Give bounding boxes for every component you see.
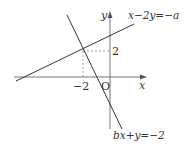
x-axis-label: x [139, 79, 146, 92]
line-label-x-minus-2y: x−2y=−a [128, 9, 179, 21]
line-label-bx-plus-y: bx+y=−2 [113, 129, 165, 141]
coordinate-diagram: y x O −2 2 x−2y=−a bx+y=−2 [0, 0, 184, 149]
y-tick-label: 2 [112, 45, 119, 58]
x-tick-label: −2 [73, 80, 89, 93]
line-bx-plus-y [67, 15, 122, 129]
y-axis-label: y [100, 9, 108, 22]
y-axis-arrow-icon [108, 11, 113, 18]
origin-label: O [101, 80, 110, 93]
